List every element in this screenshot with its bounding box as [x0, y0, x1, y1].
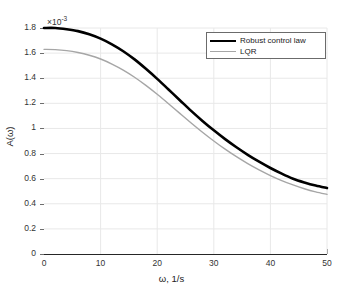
- y-axis-title: A(ω): [4, 107, 15, 167]
- legend-swatch-robust-icon: [210, 40, 236, 42]
- series-line: [44, 49, 327, 194]
- x-tick-label: 20: [142, 258, 172, 268]
- y-tick-label: 0.2: [6, 223, 36, 233]
- data-curves: [44, 28, 327, 254]
- y-tick-label: 1.6: [6, 47, 36, 57]
- chart-legend[interactable]: Robust control law LQR: [206, 32, 326, 59]
- legend-item-lqr[interactable]: LQR: [210, 46, 322, 57]
- figure-canvas: ×10-3 00.20.40.60.811.21.41.61.801020304…: [0, 0, 343, 295]
- y-exponent-power: -3: [61, 15, 67, 22]
- y-tick-label: 0.6: [6, 173, 36, 183]
- y-tick-label: 1.8: [6, 22, 36, 32]
- y-tick-mark: [40, 254, 44, 255]
- x-tick-label: 0: [29, 258, 59, 268]
- x-tick-label: 40: [255, 258, 285, 268]
- x-tick-label: 30: [199, 258, 229, 268]
- x-axis-title: ω, 1/s: [0, 273, 343, 284]
- x-tick-label: 50: [312, 258, 342, 268]
- legend-label-lqr: LQR: [240, 46, 256, 57]
- legend-item-robust-control-law[interactable]: Robust control law: [210, 35, 322, 46]
- y-tick-label: 0.4: [6, 198, 36, 208]
- x-tick-label: 10: [86, 258, 116, 268]
- plot-area: [44, 28, 327, 254]
- y-exponent-mantissa: ×10: [47, 17, 61, 27]
- y-tick-label: 0: [6, 248, 36, 258]
- legend-label-robust: Robust control law: [240, 35, 306, 46]
- y-tick-label: 1.4: [6, 72, 36, 82]
- legend-swatch-lqr-icon: [210, 51, 236, 52]
- y-axis-exponent-label: ×10-3: [47, 15, 67, 27]
